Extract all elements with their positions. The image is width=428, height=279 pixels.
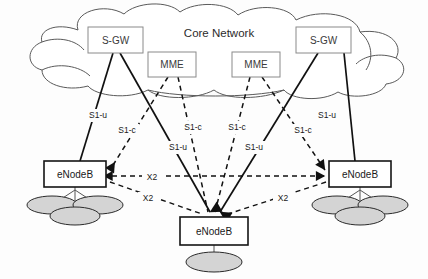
link-label-x2-left: X2	[138, 192, 158, 205]
s1c-l2-text: S1-c	[184, 122, 202, 132]
link-label-s1u-r2: S1-u	[242, 141, 266, 154]
sgw-left-label: S-GW	[102, 35, 130, 46]
s1u-l2-text: S1-u	[169, 142, 187, 152]
cloud-title: Core Network	[184, 27, 255, 39]
s1u-r1-text: S1-u	[318, 110, 336, 120]
enb-right-sector-3	[335, 207, 385, 225]
enb-left-sector-3	[50, 207, 100, 225]
link-label-layer: S1-u S1-c S1-c S1-u S1-c S1-u	[86, 109, 339, 205]
link-label-x2-right: X2	[273, 192, 293, 205]
link-label-s1c-r1: S1-c	[291, 124, 315, 137]
link-label-s1c-l1: S1-c	[115, 124, 139, 137]
sgw-right-label: S-GW	[310, 35, 338, 46]
enb-right-label: eNodeB	[342, 169, 378, 180]
mme-right-label: MME	[244, 59, 268, 70]
link-label-s1c-r2: S1-c	[225, 121, 249, 134]
link-label-s1u-l2: S1-u	[166, 141, 190, 154]
core-node-sgw-left[interactable]: S-GW	[88, 27, 143, 53]
s1c-r2-text: S1-c	[228, 122, 246, 132]
link-label-x2-top: X2	[142, 171, 162, 184]
s1u-l1-text: S1-u	[89, 110, 107, 120]
enb-center-label: eNodeB	[196, 226, 232, 237]
enb-left-label: eNodeB	[57, 169, 93, 180]
s1u-r2-text: S1-u	[245, 142, 263, 152]
enb-center-sector-1	[186, 252, 242, 272]
base-station-enb-center[interactable]: eNodeB	[180, 217, 248, 272]
link-label-s1u-l1: S1-u	[86, 109, 110, 122]
base-station-enb-right[interactable]: eNodeB	[312, 161, 408, 225]
core-node-sgw-right[interactable]: S-GW	[296, 27, 351, 53]
core-node-mme-right[interactable]: MME	[232, 52, 280, 77]
core-node-mme-left[interactable]: MME	[148, 52, 196, 77]
base-station-enb-left[interactable]: eNodeB	[27, 161, 123, 225]
network-diagram: Core Network	[0, 0, 428, 279]
link-label-s1c-l2: S1-c	[181, 121, 205, 134]
x2-top-text: X2	[147, 172, 158, 182]
x2-left-text: X2	[143, 193, 154, 203]
s1c-r1-text: S1-c	[294, 125, 312, 135]
mme-left-label: MME	[160, 59, 184, 70]
link-label-s1u-r1: S1-u	[315, 109, 339, 122]
x2-right-text: X2	[278, 193, 289, 203]
s1c-l1-text: S1-c	[118, 125, 136, 135]
